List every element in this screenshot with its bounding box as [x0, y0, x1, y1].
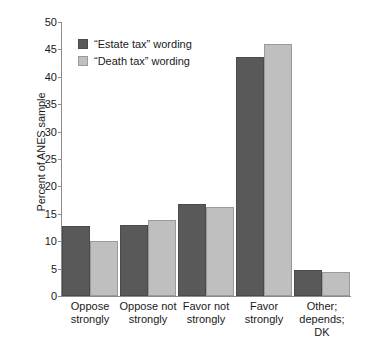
bar [206, 207, 234, 296]
y-axis-tick-label: 50 [0, 17, 57, 28]
bar [236, 57, 264, 296]
bar [62, 226, 90, 296]
bar [148, 220, 176, 296]
x-axis-label-line: Other; [285, 300, 359, 313]
bar [90, 241, 118, 296]
y-axis-tick-mark [58, 296, 62, 297]
y-axis-tick-label: 40 [0, 71, 57, 82]
legend-item-estate-tax: “Estate tax” wording [78, 36, 192, 51]
bar-chart: Percent of ANES sample 50454035302520151… [0, 0, 371, 351]
legend-swatch-death-tax [78, 56, 88, 66]
legend-label-estate-tax: “Estate tax” wording [94, 38, 192, 50]
y-axis-tick-label: 35 [0, 99, 57, 110]
x-axis-label: Other;depends;DK [285, 300, 359, 339]
y-axis-tick-label: 25 [0, 154, 57, 165]
x-axis-label-line: DK [285, 326, 359, 339]
legend-swatch-estate-tax [78, 39, 88, 49]
y-axis-tick-label: 20 [0, 181, 57, 192]
bar [322, 272, 350, 296]
legend-item-death-tax: “Death tax” wording [78, 53, 192, 68]
x-axis-label-line: depends; [285, 313, 359, 326]
y-axis-tick-label: 0 [0, 291, 57, 302]
bar [264, 44, 292, 296]
y-axis-tick-label: 30 [0, 126, 57, 137]
legend: “Estate tax” wording “Death tax” wording [78, 36, 192, 70]
y-axis-tick-label: 15 [0, 208, 57, 219]
y-axis-tick-label: 45 [0, 44, 57, 55]
y-axis-tick-label: 5 [0, 263, 57, 274]
bar [294, 270, 322, 296]
bar [178, 204, 206, 296]
bar [120, 225, 148, 296]
y-axis-tick-label: 10 [0, 236, 57, 247]
x-axis-line [61, 296, 351, 297]
legend-label-death-tax: “Death tax” wording [94, 55, 190, 67]
